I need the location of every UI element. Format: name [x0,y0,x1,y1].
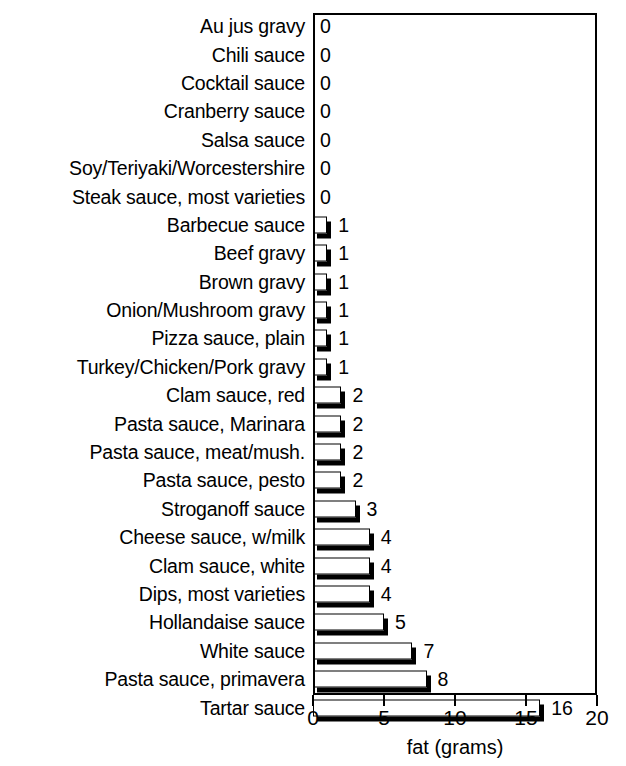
bar-value-label: 0 [320,103,331,123]
category-label: Beef gravy [214,245,305,265]
bar [313,358,332,377]
bar [313,387,346,406]
category-label: Soy/Teriyaki/Worcestershire [69,159,305,179]
x-axis-tick-label: 15 [514,707,537,728]
bar-body [313,245,327,262]
category-label: Pasta sauce, Marinara [114,415,305,435]
bar-value-label: 1 [338,216,349,236]
category-label: Cocktail sauce [181,74,305,94]
bar-body [313,557,370,574]
category-label: Pasta sauce, primavera [105,670,305,690]
bar-row: Stroganoff sauce3 [0,496,626,524]
bar-body [313,586,370,603]
category-label: Brown gravy [199,273,305,293]
bar-value-label: 4 [381,585,392,605]
bar-value-label: 2 [352,387,363,407]
x-axis-title: fat (grams) [313,737,597,757]
bar-value-label: 1 [338,273,349,293]
category-label: Chili sauce [212,46,305,66]
bar-body [313,273,327,290]
bar-body [313,642,412,659]
bar [313,273,332,292]
bar [313,586,375,605]
bar-row: Soy/Teriyaki/Worcestershire0 [0,155,626,183]
bar-row: Beef gravy1 [0,240,626,268]
bar-rows-container: Au jus gravy0Chili sauce0Cocktail sauce0… [0,13,626,723]
x-axis-tick-label: 10 [443,707,466,728]
bar [313,415,346,434]
bar-row: Clam sauce, white4 [0,552,626,580]
bar-value-label: 2 [352,472,363,492]
bar-row: Pasta sauce, pesto2 [0,467,626,495]
bar-row: White sauce7 [0,638,626,666]
bar-row: Cheese sauce, w/milk4 [0,524,626,552]
bar-value-label: 2 [352,415,363,435]
bar [313,444,346,463]
bar-row: Onion/Mushroom gravy1 [0,297,626,325]
x-axis-tick [454,695,456,706]
bar-body [313,358,327,375]
bar [313,529,375,548]
bar [313,614,389,633]
category-label: Salsa sauce [201,131,305,151]
category-label: Au jus gravy [200,17,305,37]
bar-row: Brown gravy1 [0,269,626,297]
bar-value-label: 5 [395,614,406,634]
category-label: Clam sauce, white [149,557,305,577]
bar-body [313,415,341,432]
bar-value-label: 3 [367,500,378,520]
bar-row: Turkey/Chicken/Pork gravy1 [0,354,626,382]
bar-body [313,529,370,546]
bar-value-label: 1 [338,301,349,321]
bar-value-label: 1 [338,330,349,350]
bar-value-label: 4 [381,557,392,577]
bar [313,245,332,264]
x-axis-tick-label: 20 [585,707,608,728]
bar-body [313,671,427,688]
bar-value-label: 4 [381,528,392,548]
bar-body [313,614,384,631]
category-label: Cranberry sauce [164,103,305,123]
x-axis-tick [596,695,598,706]
category-label: Dips, most varieties [139,585,305,605]
category-label: White sauce [200,642,305,662]
bar [313,330,332,349]
bar [313,500,361,519]
bar-value-label: 8 [438,670,449,690]
bar-row: Barbecue sauce1 [0,212,626,240]
bar-row: Pasta sauce, Marinara2 [0,410,626,438]
bar-value-label: 2 [352,443,363,463]
bar-body [313,302,327,319]
category-label: Turkey/Chicken/Pork gravy [77,358,305,378]
category-label: Barbecue sauce [167,216,305,236]
x-axis-tick [383,695,385,706]
bar-value-label: 1 [338,245,349,265]
bar-body [313,330,327,347]
bar-row: Cranberry sauce0 [0,98,626,126]
bar-row: Chili sauce0 [0,41,626,69]
bar-body [313,500,356,517]
bar-value-label: 0 [320,131,331,151]
bar-value-label: 0 [320,46,331,66]
bar-value-label: 1 [338,358,349,378]
bar-body [313,472,341,489]
x-axis-tick-label: 0 [307,707,319,728]
category-label: Hollandaise sauce [149,614,305,634]
bar-value-label: 0 [320,188,331,208]
category-label: Clam sauce, red [166,387,305,407]
bar-row: Pizza sauce, plain1 [0,325,626,353]
bar-value-label: 7 [423,642,434,662]
bar-row: Pasta sauce, meat/mush.2 [0,439,626,467]
bar [313,642,417,661]
bar-body [313,387,341,404]
x-axis-tick-label: 5 [378,707,390,728]
bar [313,557,375,576]
bar-value-label: 0 [320,159,331,179]
bar-value-label: 0 [320,17,331,37]
category-label: Onion/Mushroom gravy [106,301,305,321]
bar-row: Clam sauce, red2 [0,382,626,410]
category-label: Steak sauce, most varieties [72,188,305,208]
bar [313,302,332,321]
bar [313,472,346,491]
x-axis-tick [312,695,314,706]
